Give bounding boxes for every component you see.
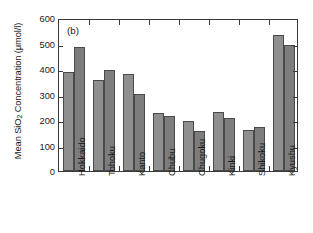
y-axis-title-post: Concentration (μmol/l): [13, 23, 23, 115]
y-axis-title-pre: Mean SiO: [13, 119, 23, 160]
y-axis-tick-label: 400: [39, 65, 55, 75]
y-axis-tick-mark: [293, 71, 297, 72]
bar: [183, 121, 194, 171]
x-axis-tick-mark: [269, 20, 270, 25]
y-axis-tick-label: 200: [39, 116, 55, 126]
bar: [243, 130, 254, 171]
x-axis-tick-label: Shikoku: [257, 143, 267, 176]
x-axis-tick-label: Kanto: [137, 152, 147, 176]
y-axis-tick-mark: [293, 46, 297, 47]
x-axis-tick-mark: [239, 20, 240, 25]
x-axis-tick-mark: [179, 166, 180, 171]
x-axis-tick-mark: [209, 166, 210, 171]
x-axis-tick-mark: [89, 20, 90, 25]
bar-group: [209, 20, 239, 171]
bar: [123, 74, 134, 171]
y-axis-tick-mark: [59, 97, 63, 98]
y-axis-tick-mark: [59, 148, 63, 149]
x-axis-tick-label: Kyushu: [287, 145, 297, 176]
x-axis-tick-label: Chubu: [167, 149, 177, 176]
figure-panel-b: Mean SiO2 Concentration (μmol/l) 0100200…: [0, 0, 313, 233]
x-axis-tick-mark: [239, 166, 240, 171]
bar: [153, 113, 164, 171]
x-axis-tick-mark: [89, 166, 90, 171]
bar-group: [119, 20, 149, 171]
x-axis-tick-label: Hokkaido: [77, 137, 87, 176]
y-axis-tick-mark: [293, 122, 297, 123]
bar: [93, 80, 104, 171]
x-axis-tick-mark: [179, 20, 180, 25]
x-axis-tick-mark: [269, 166, 270, 171]
x-axis-tick-mark: [149, 166, 150, 171]
y-axis-tick-label: 500: [39, 40, 55, 50]
y-axis-tick-label: 0: [50, 167, 55, 177]
x-axis-tick-mark: [119, 20, 120, 25]
bar: [273, 35, 284, 171]
y-axis-tick-label: 300: [39, 91, 55, 101]
x-axis-tick-mark: [149, 20, 150, 25]
y-axis-tick-label: 100: [39, 142, 55, 152]
x-axis-tick-mark: [209, 20, 210, 25]
bar: [63, 72, 74, 171]
y-axis-tick-label: 600: [39, 14, 55, 24]
bar: [213, 112, 224, 171]
x-axis-tick-label: Tohoku: [107, 146, 117, 176]
x-axis-tick-label: Chugoku: [197, 139, 207, 176]
y-axis-tick-mark: [293, 97, 297, 98]
y-axis-tick-mark: [59, 71, 63, 72]
y-axis-title: Mean SiO2 Concentration (μmol/l): [13, 11, 23, 171]
x-axis-tick-label: Kinki: [227, 156, 237, 176]
y-axis-tick-mark: [59, 122, 63, 123]
y-axis-tick-labels: 0100200300400500600: [28, 0, 55, 233]
y-axis-tick-mark: [59, 46, 63, 47]
x-axis-tick-mark: [119, 166, 120, 171]
y-axis-title-subscript: 2: [16, 115, 23, 119]
